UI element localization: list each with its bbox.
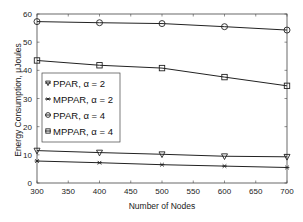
x-tick-label: 650 (249, 187, 263, 196)
y-tick-label: 10 (23, 151, 32, 160)
y-tick-label: 60 (23, 10, 32, 19)
x-tick-label: 550 (187, 187, 201, 196)
legend: PPAR, α = 2MPPAR, α = 2PPAR, α = 4MPPAR,… (42, 73, 120, 142)
y-tick-label: 20 (23, 123, 32, 132)
line-chart: 3003504004505005506006507000102030405060… (0, 0, 303, 222)
x-axis-label: Number of Nodes (129, 201, 196, 211)
legend-label: MPPAR, α = 4 (53, 126, 113, 137)
x-tick-label: 450 (124, 187, 138, 196)
legend-label: MPPAR, α = 2 (53, 94, 113, 105)
x-tick-label: 300 (30, 187, 44, 196)
y-axis-label: Energy Consumption, μJoules (13, 43, 23, 157)
x-tick-label: 500 (155, 187, 169, 196)
legend-item: PPAR, α = 4 (45, 110, 105, 121)
y-tick-label: 50 (23, 38, 32, 47)
legend-item: MPPAR, α = 2 (45, 94, 113, 105)
x-tick-label: 400 (93, 187, 107, 196)
legend-item: MPPAR, α = 4 (45, 126, 113, 137)
legend-label: PPAR, α = 4 (53, 110, 105, 121)
x-tick-label: 350 (62, 187, 76, 196)
x-tick-label: 700 (280, 187, 294, 196)
y-tick-label: 0 (28, 179, 33, 188)
y-tick-label: 30 (23, 95, 32, 104)
x-tick-label: 600 (218, 187, 232, 196)
legend-item: PPAR, α = 2 (45, 78, 105, 89)
y-tick-label: 40 (23, 66, 32, 75)
legend-label: PPAR, α = 2 (53, 78, 105, 89)
